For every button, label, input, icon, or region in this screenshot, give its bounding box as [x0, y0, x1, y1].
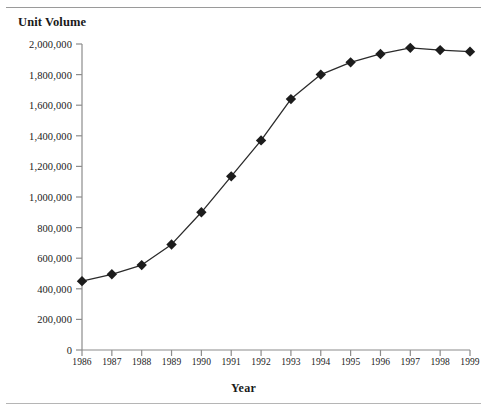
data-point-marker — [435, 45, 445, 55]
y-tick-label: 400,000 — [37, 283, 72, 294]
x-tick-label: 1999 — [460, 357, 479, 367]
axis-lines — [82, 44, 470, 350]
x-tick-label: 1986 — [72, 357, 91, 367]
y-tick-label: 1,000,000 — [29, 192, 72, 203]
y-tick-label: 1,400,000 — [29, 130, 72, 141]
x-axis-tick-marks — [82, 350, 470, 356]
x-tick-label: 1994 — [311, 357, 330, 367]
y-tick-label: 2,000,000 — [29, 39, 72, 50]
data-point-marker — [136, 260, 146, 270]
x-tick-label: 1998 — [430, 357, 449, 367]
data-point-marker — [375, 49, 385, 59]
x-tick-label: 1997 — [401, 357, 420, 367]
y-tick-label: 1,800,000 — [29, 69, 72, 80]
x-axis-title: Year — [0, 381, 487, 396]
x-tick-label: 1987 — [102, 357, 121, 367]
data-point-marker — [77, 276, 87, 286]
chart-svg — [0, 0, 487, 412]
line-chart-plot — [0, 0, 487, 412]
chart-page: Unit Volume 0200,000400,000600,000800,00… — [0, 0, 487, 412]
y-tick-label: 800,000 — [37, 222, 72, 233]
y-axis-labels: 0200,000400,000600,000800,0001,000,0001,… — [6, 0, 72, 412]
data-point-markers — [77, 43, 475, 287]
x-tick-label: 1989 — [162, 357, 181, 367]
data-point-marker — [345, 57, 355, 67]
x-tick-label: 1990 — [192, 357, 211, 367]
x-tick-label: 1995 — [341, 357, 360, 367]
y-axis-tick-marks — [76, 44, 82, 350]
y-tick-label: 600,000 — [37, 253, 72, 264]
y-tick-label: 0 — [67, 345, 72, 356]
data-point-marker — [465, 46, 475, 56]
y-tick-label: 1,200,000 — [29, 161, 72, 172]
y-tick-label: 200,000 — [37, 314, 72, 325]
data-series-line — [82, 48, 470, 281]
data-point-marker — [405, 43, 415, 53]
x-tick-label: 1988 — [132, 357, 151, 367]
y-tick-label: 1,600,000 — [29, 100, 72, 111]
x-tick-label: 1991 — [222, 357, 241, 367]
x-tick-label: 1993 — [281, 357, 300, 367]
x-tick-label: 1996 — [371, 357, 390, 367]
x-tick-label: 1992 — [251, 357, 270, 367]
data-point-marker — [107, 269, 117, 279]
